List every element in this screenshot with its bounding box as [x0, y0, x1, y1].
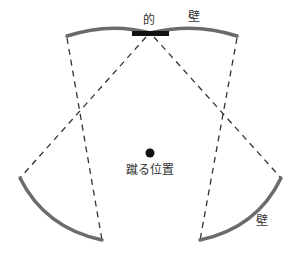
dashed-line-left-outer [67, 38, 102, 240]
bottom-wall-label: 壁 [256, 213, 268, 228]
kick-point-dot [146, 149, 155, 158]
kick-position-label: 蹴る位置 [126, 162, 174, 177]
bottom-left-wall-arc [20, 178, 102, 240]
dashed-line-right-outer [200, 38, 237, 240]
target-block [132, 31, 169, 36]
dashed-line-right-inner [154, 37, 281, 178]
dashed-line-left-inner [20, 37, 146, 178]
kick-diagram: 的 壁 蹴る位置 壁 [0, 0, 299, 257]
top-wall-label: 壁 [188, 9, 200, 24]
bottom-right-wall-arc [200, 178, 281, 240]
target-label: 的 [143, 12, 155, 27]
